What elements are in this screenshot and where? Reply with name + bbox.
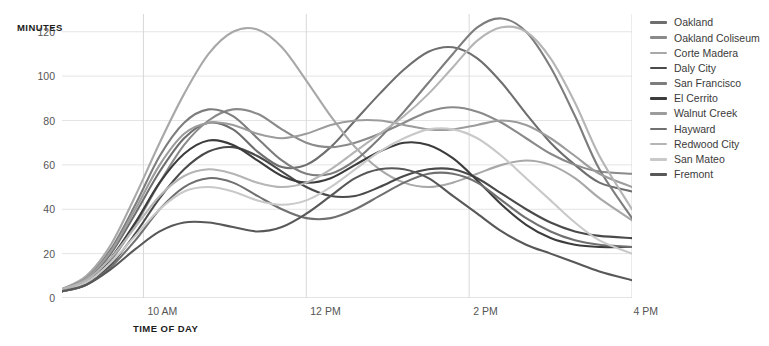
y-axis-tick-label: 0	[49, 292, 55, 304]
series-line	[62, 27, 632, 289]
legend-item-label: Hayward	[674, 124, 715, 135]
legend-color-swatch	[650, 82, 667, 85]
legend-item-label: San Francisco	[674, 78, 741, 89]
legend-item[interactable]: El Cerrito	[650, 91, 768, 106]
legend-color-swatch	[650, 128, 667, 131]
legend-color-swatch	[650, 67, 667, 70]
legend-color-swatch	[650, 36, 667, 39]
x-axis-tick-label: 12 PM	[310, 305, 340, 317]
legend-color-swatch	[650, 143, 667, 146]
legend-item-label: Fremont	[674, 169, 713, 180]
legend-color-swatch	[650, 97, 667, 100]
legend-color-swatch	[650, 52, 667, 55]
legend-item[interactable]: Oakland Coliseum	[650, 30, 768, 45]
x-axis-tick-label: 10 AM	[147, 305, 177, 317]
y-axis-tick-label: 60	[43, 159, 55, 171]
legend-item-label: Oakland Coliseum	[674, 33, 760, 44]
x-axis-tick-label: 4 PM	[633, 305, 658, 317]
series-line	[62, 18, 632, 289]
legend-item[interactable]: Hayward	[650, 121, 768, 136]
vertical-gridlines	[143, 14, 632, 298]
y-axis-tick-label: 100	[37, 70, 55, 82]
legend-item-label: Oakland	[674, 17, 713, 28]
chart-legend: OaklandOakland ColiseumCorte MaderaDaly …	[650, 15, 768, 182]
legend-item[interactable]: Walnut Creek	[650, 106, 768, 121]
legend-item[interactable]: Redwood City	[650, 137, 768, 152]
y-axis-tick-label: 80	[43, 115, 55, 127]
legend-item-label: Redwood City	[674, 139, 739, 150]
legend-item[interactable]: San Francisco	[650, 76, 768, 91]
legend-item-label: San Mateo	[674, 154, 725, 165]
legend-item[interactable]: San Mateo	[650, 152, 768, 167]
legend-item[interactable]: Fremont	[650, 167, 768, 182]
legend-item-label: Corte Madera	[674, 48, 738, 59]
legend-color-swatch	[650, 21, 667, 24]
y-axis-tick-label: 20	[43, 248, 55, 260]
x-axis-title: TIME OF DAY	[133, 323, 198, 334]
legend-item[interactable]: Oakland	[650, 15, 768, 30]
legend-item[interactable]: Daly City	[650, 61, 768, 76]
legend-item[interactable]: Corte Madera	[650, 45, 768, 60]
plot-area: 020406080100120 10 AM12 PM2 PM4 PM	[62, 14, 632, 298]
legend-color-swatch	[650, 158, 667, 161]
x-axis-tick-label: 2 PM	[473, 305, 498, 317]
chart-container: MINUTES TIME OF DAY 020406080100120 10 A…	[0, 0, 769, 346]
legend-color-swatch	[650, 112, 667, 115]
legend-color-swatch	[650, 173, 667, 176]
y-axis-tick-label: 120	[37, 26, 55, 38]
legend-item-label: Walnut Creek	[674, 108, 737, 119]
line-chart-svg	[62, 14, 632, 298]
series-lines	[62, 18, 632, 291]
legend-item-label: Daly City	[674, 63, 716, 74]
y-axis-tick-label: 40	[43, 203, 55, 215]
legend-item-label: El Cerrito	[674, 93, 718, 104]
